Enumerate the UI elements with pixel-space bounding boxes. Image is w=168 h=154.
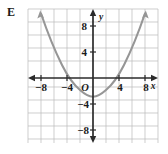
y-tick-label-neg8: −8 [77,124,89,136]
x-tick-label-neg4: −4 [61,81,73,93]
coordinate-plane: −8 −4 4 8 8 4 −4 −8 O x y [0,0,168,154]
x-tick-label-neg8: −8 [35,81,47,93]
x-axis-label: x [150,81,156,91]
graph-figure: E [0,0,168,154]
y-axis-label: y [98,12,104,22]
x-tick-label-4: 4 [117,81,123,93]
origin-label: O [81,82,89,93]
y-tick-label-neg4: −4 [77,98,89,110]
y-tick-label-4: 4 [82,46,88,58]
y-tick-label-8: 8 [82,20,88,32]
x-tick-label-8: 8 [143,81,149,93]
